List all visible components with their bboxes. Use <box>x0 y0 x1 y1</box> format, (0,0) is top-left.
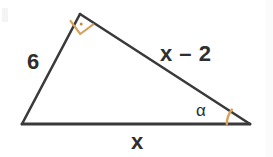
angle-arc-marker-alpha <box>227 110 232 124</box>
label-side-left: 6 <box>27 51 39 73</box>
right-angle-dot-icon <box>80 23 83 26</box>
scan-artifact-top-left <box>2 8 8 22</box>
scan-artifact-right-edge <box>266 0 273 157</box>
label-side-base: x <box>131 131 143 153</box>
label-angle-alpha: α <box>196 102 206 119</box>
label-side-hypotenuse: x – 2 <box>160 43 211 65</box>
triangle-side-hypotenuse <box>80 14 250 124</box>
geometry-figure: 6 x – 2 x α <box>0 0 273 157</box>
